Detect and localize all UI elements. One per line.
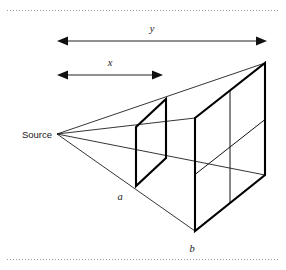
- far-plane-label: b: [189, 243, 194, 254]
- near-plane-outline: [136, 99, 166, 186]
- ray-to-top-right: [57, 63, 265, 134]
- near-plane-group: [136, 99, 166, 186]
- near-plane-label: a: [117, 191, 122, 202]
- dimension-x-left-arrowhead: [57, 71, 68, 80]
- dimension-y: y: [57, 23, 267, 46]
- far-plane-group: [195, 63, 265, 231]
- ray-to-top-left: [57, 118, 195, 134]
- dimension-y-left-arrowhead: [57, 37, 68, 46]
- dimension-x-right-arrowhead: [152, 71, 163, 80]
- dimension-x-label: x: [107, 57, 113, 68]
- dimension-y-right-arrowhead: [256, 37, 267, 46]
- ray-to-bottom-right: [57, 134, 265, 175]
- dimension-y-label: y: [149, 23, 155, 34]
- ray-to-bottom-left: [57, 134, 195, 231]
- dimension-x: x: [57, 57, 163, 80]
- source-label: Source: [22, 129, 52, 140]
- figure-container: y x Source a b: [0, 0, 286, 270]
- inverse-square-law-diagram: y x Source a b: [0, 0, 286, 270]
